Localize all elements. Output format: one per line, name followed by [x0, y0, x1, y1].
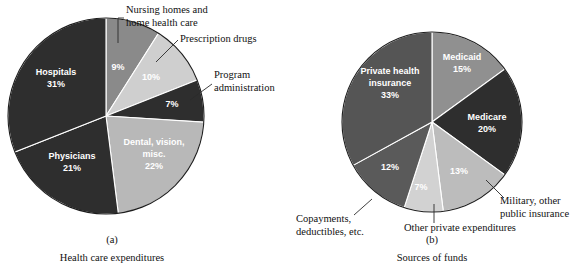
other-private-expenditures-callout-text: Other private expenditures [404, 222, 516, 233]
slice-label: Physicians [48, 151, 95, 161]
nursing-homes-callout-text: home health care [126, 17, 198, 28]
copayments-deductibles-callout-text: Copayments, [296, 213, 351, 224]
panel-caption: Sources of funds [397, 252, 468, 263]
slice-label: 15% [453, 64, 471, 74]
slice-label: 22% [145, 161, 163, 171]
prescription-drugs-callout-text: Prescription drugs [180, 33, 257, 44]
slice-label: insurance [369, 78, 412, 88]
slice-label: Medicare [467, 112, 506, 122]
slice-label: 10% [142, 72, 160, 82]
copayments-deductibles-callout-text: deductibles, etc. [296, 226, 364, 237]
panel-letter: (a) [106, 234, 118, 246]
slice-label: 33% [381, 90, 399, 100]
program-administration-callout-text: administration [214, 82, 275, 93]
slice-label: 7% [414, 182, 427, 192]
program-administration-callout-text: Program [214, 69, 250, 80]
slice-label: Medicaid [443, 52, 482, 62]
slice-label: 20% [478, 124, 496, 134]
military-other-public-insurance-callout-text: public insurance [500, 208, 569, 219]
slice-label: Dental, vision, [123, 137, 184, 147]
panel-letter: (b) [426, 234, 439, 246]
slice-label: 21% [63, 163, 81, 173]
panel-caption: Health care expenditures [60, 252, 164, 263]
military-other-public-insurance-callout-text: Military, other [500, 195, 561, 206]
pie-charts-figure: 9%10%7%Dental, vision,misc.22%Physicians… [0, 0, 578, 270]
nursing-homes-callout-text: Nursing homes and [126, 4, 208, 15]
slice-label: 12% [381, 162, 399, 172]
slice-label: 31% [47, 79, 65, 89]
figure-root: 9%10%7%Dental, vision,misc.22%Physicians… [0, 0, 578, 270]
slice-label: misc. [142, 149, 165, 159]
slice-label: 9% [111, 62, 124, 72]
slice-label: Private health [360, 66, 419, 76]
slice-label: Hospitals [36, 67, 77, 77]
slice-label: 7% [165, 99, 178, 109]
slice-label: 13% [450, 166, 468, 176]
